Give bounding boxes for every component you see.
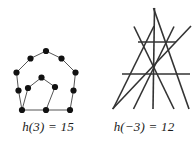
triangle-lattice-drawing	[96, 0, 192, 118]
graph-node	[15, 87, 21, 93]
pentagon-graph-drawing	[0, 0, 96, 118]
caption-text-right: h(−3) = 12	[114, 119, 175, 134]
graph-node	[25, 85, 31, 91]
graph-edge	[46, 87, 55, 110]
graph-node	[38, 74, 44, 80]
figure-panel-pentagon-graph: h(3) = 15	[0, 0, 96, 145]
lattice-segment	[153, 8, 155, 109]
graph-node	[19, 107, 25, 113]
graph-node	[52, 84, 58, 90]
graph-node	[43, 48, 49, 54]
lattice-segments	[113, 8, 192, 109]
graph-node	[58, 55, 64, 61]
graph-node	[72, 69, 78, 75]
caption-text-left: h(3) = 15	[22, 119, 74, 134]
caption-triangle-lattice: h(−3) = 12	[96, 119, 192, 135]
lattice-segment	[113, 26, 192, 109]
graph-node	[43, 107, 49, 113]
lattice-segment	[113, 26, 154, 109]
graph-node	[70, 87, 76, 93]
graph-node	[67, 107, 73, 113]
graph-edges	[17, 51, 76, 110]
graph-node	[27, 55, 33, 61]
caption-pentagon-graph: h(3) = 15	[0, 119, 96, 135]
graph-node	[13, 69, 19, 75]
figure-page: h(3) = 15 h(−3) = 12	[0, 0, 192, 145]
graph-edge	[22, 88, 28, 110]
figure-panel-triangle-lattice: h(−3) = 12	[96, 0, 192, 145]
